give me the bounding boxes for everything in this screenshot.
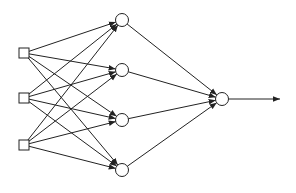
edge-input3-to-hidden4 [29, 146, 116, 168]
edge-hidden4-to-output1 [127, 103, 216, 166]
edge-hidden3-to-output1 [128, 100, 215, 118]
output-node-1 [216, 93, 229, 106]
input-node-3 [19, 140, 29, 150]
neural-network-diagram [0, 0, 296, 193]
edge-input3-to-hidden3 [29, 122, 116, 144]
edge-input1-to-hidden1 [29, 22, 116, 51]
hidden-node-1 [116, 14, 129, 27]
hidden-node-4 [116, 164, 129, 177]
edge-input2-to-hidden3 [29, 99, 116, 118]
input-node-1 [19, 48, 29, 58]
edge-input1-to-hidden2 [29, 54, 116, 69]
connections [28, 22, 280, 168]
edge-input3-to-hidden1 [28, 25, 118, 140]
input-node-2 [19, 93, 29, 103]
hidden-node-2 [116, 64, 129, 77]
hidden-node-3 [116, 114, 129, 127]
edge-hidden2-to-output1 [128, 72, 216, 97]
